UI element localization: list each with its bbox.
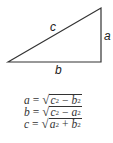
right-triangle-diagram: c a b: [0, 0, 113, 80]
equals-sign: =: [32, 118, 39, 130]
formula-lhs: a: [24, 94, 30, 106]
radical-icon: √: [42, 118, 49, 130]
equals-sign: =: [33, 94, 40, 106]
formula-lhs: b: [24, 106, 30, 118]
label-vertical-leg: a: [104, 30, 111, 42]
radicand: c2 − b2: [49, 94, 81, 106]
radicand: c2 − a2: [49, 106, 81, 118]
formula-c: c = √ a2 + b2: [24, 118, 104, 130]
radicand: a2 + b2: [49, 118, 82, 130]
equals-sign: =: [33, 106, 40, 118]
square-root: √ a2 + b2: [42, 118, 82, 130]
label-horizontal-leg: b: [55, 64, 62, 76]
label-hypotenuse: c: [50, 21, 56, 33]
formula-lhs: c: [24, 118, 29, 130]
formula-a: a = √ c2 − b2: [24, 94, 104, 106]
pythagorean-formulas: a = √ c2 − b2 b = √ c2 − a2 c = √: [24, 94, 104, 130]
formula-b: b = √ c2 − a2: [24, 106, 104, 118]
